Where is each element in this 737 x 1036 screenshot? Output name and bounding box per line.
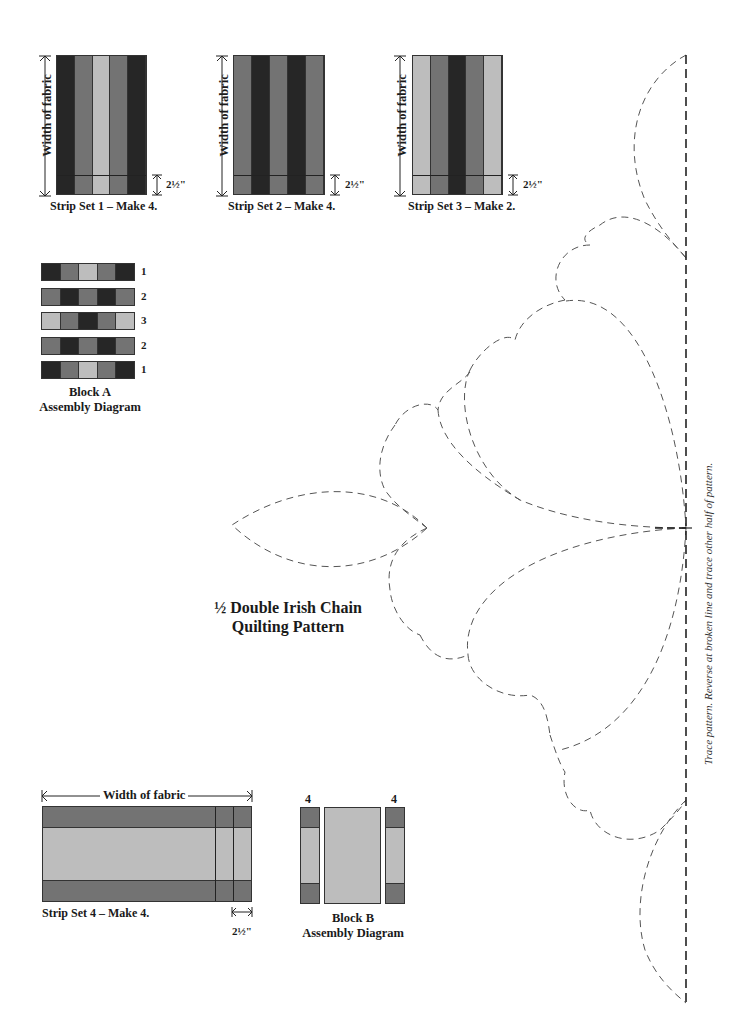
side-unit-right: [385, 807, 405, 904]
strip-set-4-fabric: [42, 806, 252, 902]
width-of-fabric-label: Width of fabric: [100, 788, 188, 803]
cut-line: [233, 807, 234, 901]
strip-set-caption: Strip Set 4 – Make 4.: [42, 906, 149, 921]
block-b-title: Block B: [293, 911, 413, 926]
side-unit-left: [300, 807, 320, 904]
block-b-subtitle: Assembly Diagram: [293, 926, 413, 941]
cut-dimension-arrow-icon: [231, 906, 253, 918]
strip: [386, 884, 404, 903]
trace-instructions: Trace pattern. Reverse at broken line an…: [702, 463, 714, 765]
strip: [301, 808, 319, 828]
quilting-pattern-title-line1: ½ Double Irish Chain: [188, 598, 388, 617]
cut-width-label: 2½": [232, 925, 252, 937]
block-b-caption: Block B Assembly Diagram: [293, 911, 413, 941]
cut-line: [215, 807, 216, 901]
strip: [43, 807, 251, 828]
strip: [301, 884, 319, 903]
strip: [301, 828, 319, 884]
strip: [386, 828, 404, 884]
strip: [43, 828, 251, 881]
strip: [386, 808, 404, 828]
quilting-pattern-title-line2: Quilting Pattern: [188, 617, 388, 636]
unit-label-left: 4: [305, 792, 311, 807]
center-square: [324, 807, 381, 904]
unit-label-right: 4: [391, 792, 397, 807]
strip: [43, 881, 251, 901]
quilting-pattern-title: ½ Double Irish Chain Quilting Pattern: [188, 598, 388, 636]
